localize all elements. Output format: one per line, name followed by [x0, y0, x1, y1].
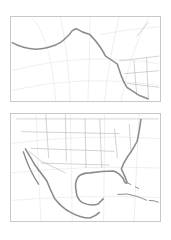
caribbean-islands	[117, 183, 158, 203]
map-us-mexico-caribbean	[11, 114, 160, 221]
map-alaska-pacific-coast	[11, 17, 160, 101]
map-panel-alaska-pacific-coast	[10, 16, 161, 102]
coastline-pacific-mexico	[25, 148, 100, 218]
coastline	[12, 29, 149, 99]
state-borders	[16, 114, 158, 173]
map-panel-us-mexico-caribbean	[10, 113, 161, 222]
